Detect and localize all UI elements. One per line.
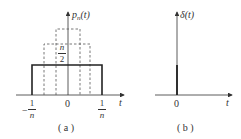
- diagram-canvas: [0, 0, 241, 139]
- origin-label-a: 0: [65, 99, 70, 109]
- panel-a-graph: [16, 12, 124, 95]
- y-axis-label-a: pn(t): [72, 10, 90, 22]
- x-axis-label-a: t: [119, 98, 122, 108]
- x-axis-label-b: t: [226, 98, 229, 108]
- dashed-pulse-mid: [44, 44, 90, 95]
- origin-label-b: 0: [174, 99, 179, 109]
- solid-pulse: [32, 65, 102, 95]
- panel-b-graph: [155, 12, 232, 95]
- height-label-n-over-2: n2: [58, 43, 66, 64]
- right-tick-label: 1n: [98, 99, 106, 120]
- caption-a: ( a ): [58, 123, 74, 133]
- left-tick-sign: −: [22, 106, 28, 116]
- left-tick-label: 1n: [28, 99, 36, 120]
- y-axis-label-b: δ(t): [180, 10, 194, 20]
- caption-b: ( b ): [177, 123, 194, 133]
